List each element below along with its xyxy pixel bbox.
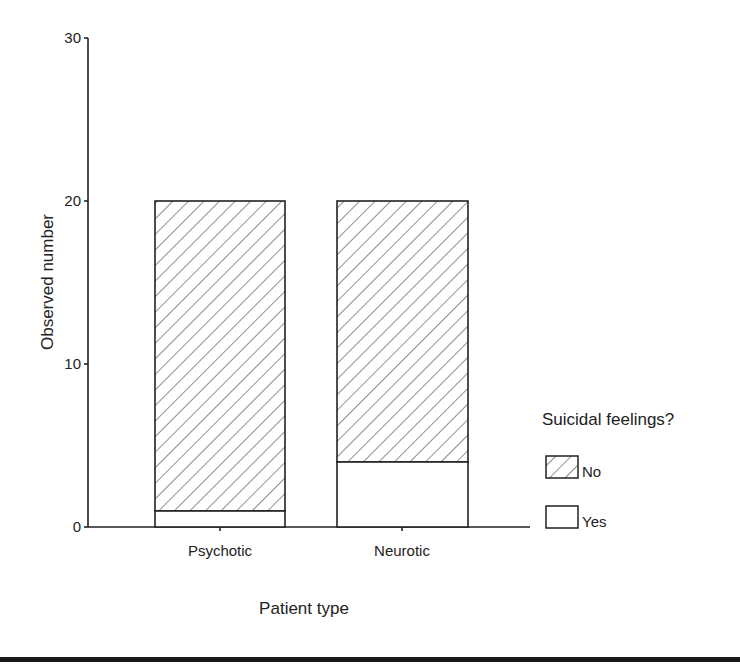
x-tick-neurotic: Neurotic <box>374 542 430 559</box>
y-axis-title: Observed number <box>38 214 57 350</box>
y-axis: 30 20 10 0 Observed number <box>38 29 88 535</box>
y-tick-20: 20 <box>64 192 81 209</box>
stacked-bar-chart: 30 20 10 0 Observed number Psychotic Neu… <box>0 0 740 665</box>
bar-neurotic <box>337 201 468 527</box>
bar-psychotic <box>155 201 285 527</box>
bottom-rule <box>0 657 740 662</box>
x-tick-psychotic: Psychotic <box>188 542 253 559</box>
legend-swatch-no <box>546 456 578 478</box>
y-tick-10: 10 <box>64 355 81 372</box>
legend-title: Suicidal feelings? <box>542 410 674 429</box>
y-tick-0: 0 <box>73 518 81 535</box>
legend: Suicidal feelings? No Yes <box>542 410 674 530</box>
bar-neurotic-yes <box>337 462 468 527</box>
bar-psychotic-no <box>155 201 285 511</box>
x-axis-title: Patient type <box>259 599 349 618</box>
legend-label-yes: Yes <box>582 513 606 530</box>
legend-label-no: No <box>582 463 601 480</box>
bar-neurotic-no <box>337 201 468 462</box>
bar-psychotic-yes <box>155 511 285 527</box>
legend-swatch-yes <box>546 506 578 528</box>
y-tick-30: 30 <box>64 29 81 46</box>
x-axis: Psychotic Neurotic Patient type <box>88 527 530 618</box>
